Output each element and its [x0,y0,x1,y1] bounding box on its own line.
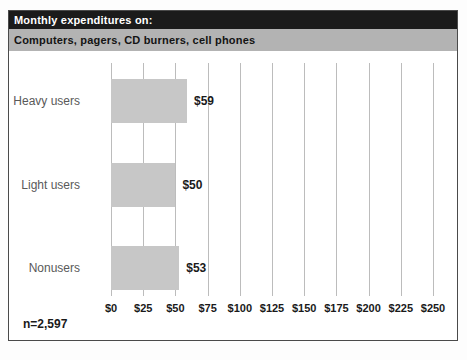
axis-tick-label: $175 [324,302,348,314]
gridline-$175 [336,63,337,296]
plot-area: Heavy users$59Light users$50Nonusers$53$… [111,63,433,296]
axis-tick-label: $250 [421,302,445,314]
category-label: Nonusers [0,261,80,275]
axis-tick-label: $200 [356,302,380,314]
axis-tick-label: $150 [292,302,316,314]
value-label: $53 [186,261,206,275]
bar-heavy-users [111,79,187,123]
axis-tick-label: $225 [389,302,413,314]
value-label: $50 [182,178,202,192]
axis-tick-label: $100 [228,302,252,314]
axis-tick-label: $125 [260,302,284,314]
axis-tick-label: $50 [166,302,184,314]
chart-subtitle-bar: Computers, pagers, CD burners, cell phon… [9,29,457,51]
bar-nonusers [111,246,179,290]
axis-tick-label: $75 [198,302,216,314]
gridline-$150 [304,63,305,296]
category-label: Heavy users [0,94,80,108]
gridline-$200 [369,63,370,296]
bar-light-users [111,163,175,207]
sample-size-note: n=2,597 [23,317,67,331]
category-label: Light users [0,178,80,192]
chart-title-bar: Monthly expenditures on: [9,11,457,29]
axis-tick-label: $25 [134,302,152,314]
value-label: $59 [194,94,214,108]
axis-tick-label: $0 [105,302,117,314]
gridline-$125 [272,63,273,296]
gridline-$225 [401,63,402,296]
gridline-$100 [240,63,241,296]
chart-figure: Monthly expenditures on: Computers, page… [8,10,458,341]
gridline-$250 [433,63,434,296]
